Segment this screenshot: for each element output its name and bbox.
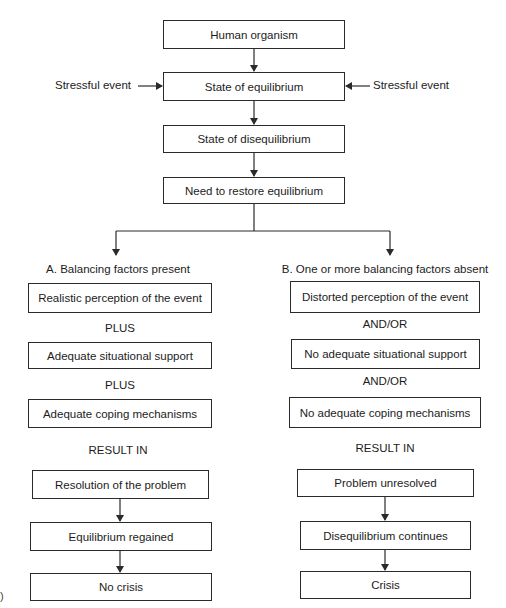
node-label: Problem unresolved (334, 477, 436, 489)
branch-a-factor-support: Adequate situational support (28, 342, 212, 369)
branch-a-outcome-resolution: Resolution of the problem (32, 470, 209, 499)
branch-b-connector-1: AND/OR (363, 318, 408, 330)
node-label: State of equilibrium (205, 81, 303, 93)
node-human-organism: Human organism (163, 20, 345, 49)
node-label: Adequate situational support (47, 350, 193, 362)
node-state-of-disequilibrium: State of disequilibrium (163, 125, 345, 153)
node-label: Crisis (371, 579, 400, 591)
branch-b-factor-support: No adequate situational support (291, 339, 480, 369)
node-label: No adequate situational support (304, 348, 466, 360)
branch-a-outcome-no-crisis: No crisis (30, 573, 212, 601)
node-label: Human organism (210, 29, 298, 41)
node-label: Realistic perception of the event (38, 292, 202, 304)
node-label: Need to restore equilibrium (185, 185, 323, 197)
branch-b-connector-2: AND/OR (363, 375, 408, 387)
branch-a-outcome-regained: Equilibrium regained (30, 522, 212, 551)
node-label: Resolution of the problem (55, 479, 186, 491)
branch-a-connector-2: PLUS (105, 379, 135, 391)
node-label: No adequate coping mechanisms (300, 407, 471, 419)
branch-b-outcome-crisis: Crisis (300, 571, 471, 599)
node-label: No crisis (99, 581, 143, 593)
node-label: Adequate coping mechanisms (43, 408, 197, 420)
stressful-event-right-label: Stressful event (373, 79, 449, 91)
branch-b-title: B. One or more balancing factors absent (282, 263, 488, 275)
branch-a-title: A. Balancing factors present (46, 263, 190, 275)
cropped-edge-glyph: ) (0, 590, 4, 602)
branch-b-result-label: RESULT IN (355, 442, 414, 454)
node-label: Equilibrium regained (69, 531, 174, 543)
branch-b-factor-perception: Distorted perception of the event (290, 281, 480, 313)
node-label: Distorted perception of the event (302, 291, 468, 303)
node-state-of-equilibrium: State of equilibrium (163, 72, 345, 101)
node-label: Disequilibrium continues (323, 530, 448, 542)
branch-a-result-label: RESULT IN (88, 444, 147, 456)
node-label: State of disequilibrium (197, 133, 310, 145)
stressful-event-left-label: Stressful event (55, 79, 131, 91)
branch-a-connector-1: PLUS (105, 322, 135, 334)
branch-b-factor-coping: No adequate coping mechanisms (289, 397, 481, 428)
branch-b-outcome-continues: Disequilibrium continues (300, 521, 471, 550)
branch-a-factor-perception: Realistic perception of the event (28, 283, 212, 313)
node-need-to-restore: Need to restore equilibrium (163, 177, 345, 204)
branch-a-factor-coping: Adequate coping mechanisms (28, 399, 212, 428)
branch-b-outcome-unresolved: Problem unresolved (297, 469, 474, 497)
